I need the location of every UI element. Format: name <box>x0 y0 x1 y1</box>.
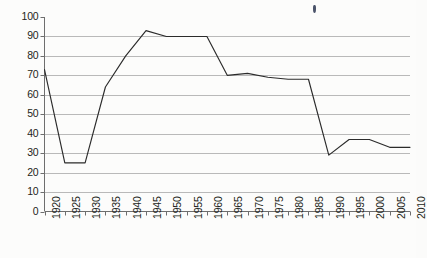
y-axis-ticks <box>41 18 45 213</box>
x-axis-tick-label: 2000 <box>374 196 386 219</box>
y-axis-tick-label: 100 <box>13 10 39 22</box>
x-axis-tick-label: 1920 <box>50 196 62 219</box>
x-axis-tick-label: 1930 <box>90 196 102 219</box>
data-series-line <box>45 31 411 163</box>
y-axis-tick-label: 80 <box>13 49 39 61</box>
y-axis-tick-label: 60 <box>13 88 39 100</box>
y-axis-tick-label: 10 <box>13 185 39 197</box>
y-axis-tick-label: 30 <box>13 146 39 158</box>
scan-artifact-speck <box>313 5 316 13</box>
x-axis-tick-label: 1985 <box>313 196 325 219</box>
x-axis-tick-label: 1955 <box>192 196 204 219</box>
x-axis-tick-label: 1960 <box>212 196 224 219</box>
y-axis-tick-label: 70 <box>13 68 39 80</box>
x-axis-tick-label: 2010 <box>415 196 427 219</box>
y-axis-tick-label: 20 <box>13 166 39 178</box>
gridlines <box>45 18 411 193</box>
x-axis-tick-label: 1970 <box>253 196 265 219</box>
x-axis-tick-label: 1950 <box>171 196 183 219</box>
x-axis-tick-label: 1980 <box>293 196 305 219</box>
x-axis-tick-label: 1990 <box>334 196 346 219</box>
y-axis-tick-label: 40 <box>13 127 39 139</box>
y-axis-tick-label: 50 <box>13 107 39 119</box>
x-axis-tick-label: 1965 <box>232 196 244 219</box>
x-axis-tick-label: 1925 <box>70 196 82 219</box>
y-axis-tick-label: 0 <box>13 205 39 217</box>
x-axis-tick-label: 1975 <box>273 196 285 219</box>
x-axis-tick-label: 1995 <box>354 196 366 219</box>
x-axis-tick-label: 1935 <box>110 196 122 219</box>
x-axis-tick-label: 1940 <box>131 196 143 219</box>
x-axis-tick-label: 1945 <box>151 196 163 219</box>
y-axis-tick-label: 90 <box>13 29 39 41</box>
x-axis-tick-label: 2005 <box>395 196 407 219</box>
